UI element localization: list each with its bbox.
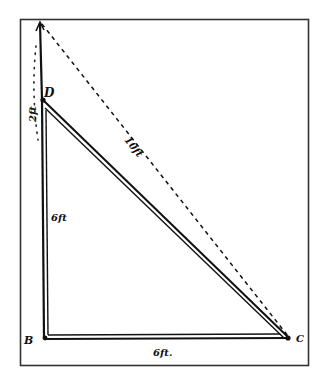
side-BC-outer: [44, 338, 289, 339]
label-vertical-side-6ft: 6ft: [51, 212, 67, 223]
vertex-label-B: B: [23, 334, 33, 347]
hypotenuse-DC-outer: [43, 100, 289, 338]
label-top-segment-2ft: 2ft: [27, 106, 38, 123]
label-hypotenuse-10ft: 10ft: [122, 134, 145, 159]
triangle-diagram: D B C 2ft 6ft 6ft. 10ft: [0, 0, 329, 382]
vertex-label-C: C: [296, 333, 304, 344]
hypotenuse-DC-inner: [45, 108, 284, 338]
dotted-arc-top-segment: [34, 46, 38, 140]
diagram-frame: [21, 20, 309, 366]
vertex-B-dot: [43, 336, 48, 341]
side-BC-inner: [48, 334, 280, 335]
side-BD-inner: [46, 110, 48, 335]
top-vertical-segment: [40, 23, 42, 100]
dashed-line-top-to-C: [42, 24, 288, 336]
vertex-label-D: D: [43, 86, 55, 100]
vertex-C-dot: [285, 335, 290, 340]
side-BD-outer: [42, 100, 44, 339]
label-bottom-side-6ft: 6ft.: [153, 347, 172, 358]
